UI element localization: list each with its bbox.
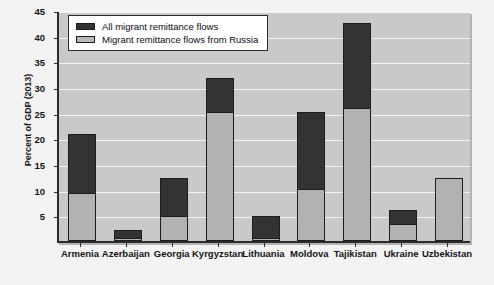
bar-group[interactable] [435, 10, 463, 241]
legend-label: Migrant remittance flows from Russia [102, 34, 258, 45]
bar-group[interactable] [343, 10, 371, 241]
y-axis-tick [54, 115, 59, 116]
y-axis-tick [54, 140, 59, 141]
y-axis-tick [54, 12, 59, 13]
bar-group[interactable] [389, 10, 417, 241]
x-axis-tick [355, 243, 356, 247]
y-axis-tick [54, 63, 59, 64]
bar-russia-segment[interactable] [206, 112, 234, 241]
x-axis-tick [172, 243, 173, 247]
bar-chart: Percent of GDP (2013) All migrant remitt… [0, 0, 494, 285]
bar-russia-segment[interactable] [160, 216, 188, 241]
x-axis-tick [80, 243, 81, 247]
y-axis-tick-label: 20 [9, 134, 45, 145]
bar-group[interactable] [297, 10, 325, 241]
x-axis-tick [218, 243, 219, 247]
y-axis-tick [54, 89, 59, 90]
y-axis-tick-label: 15 [9, 160, 45, 171]
legend-item: All migrant remittance flows [76, 20, 258, 33]
bar-russia-segment[interactable] [68, 193, 96, 241]
x-axis-tick [309, 243, 310, 247]
dark-swatch-icon [76, 23, 95, 30]
y-axis-tick-label: 5 [9, 211, 45, 222]
bar-russia-segment[interactable] [389, 224, 417, 241]
legend-label: All migrant remittance flows [102, 21, 218, 32]
bar-russia-segment[interactable] [252, 238, 280, 241]
x-axis-tick [401, 243, 402, 247]
y-axis-tick-label: 25 [9, 109, 45, 120]
bar-russia-segment[interactable] [343, 108, 371, 241]
legend-item: Migrant remittance flows from Russia [76, 33, 258, 46]
y-axis-tick [54, 38, 59, 39]
chart-legend: All migrant remittance flows Migrant rem… [68, 15, 268, 51]
y-axis-tick-label: 10 [9, 186, 45, 197]
y-axis-tick [54, 192, 59, 193]
x-axis-tick [447, 243, 448, 247]
y-axis-tick-label: 35 [9, 57, 45, 68]
y-axis-tick-label: 40 [9, 32, 45, 43]
bar-russia-segment[interactable] [297, 189, 325, 241]
y-axis-tick-label: 30 [9, 83, 45, 94]
light-swatch-icon [76, 36, 95, 43]
x-axis-label: Uzbekistan [418, 248, 476, 259]
y-axis-tick [54, 166, 59, 167]
x-axis-tick [264, 243, 265, 247]
y-axis-tick [54, 217, 59, 218]
y-axis-tick-label: 45 [9, 6, 45, 17]
x-axis-tick [126, 243, 127, 247]
bar-russia-segment[interactable] [435, 178, 463, 241]
bar-russia-segment[interactable] [114, 238, 142, 241]
